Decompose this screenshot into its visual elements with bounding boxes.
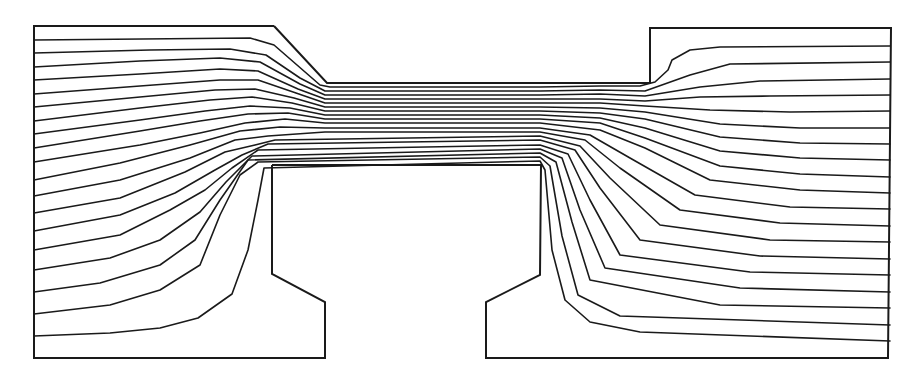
streamline-17 bbox=[34, 157, 890, 325]
diagram-canvas bbox=[0, 0, 923, 380]
streamline-18 bbox=[34, 161, 890, 341]
streamline-diagram bbox=[0, 0, 923, 380]
streamline-0 bbox=[34, 38, 890, 87]
streamline-10 bbox=[34, 127, 890, 209]
streamline-16 bbox=[34, 153, 890, 308]
right-chamber-and-island-boundary bbox=[272, 26, 891, 358]
channel-boundaries bbox=[34, 26, 891, 358]
